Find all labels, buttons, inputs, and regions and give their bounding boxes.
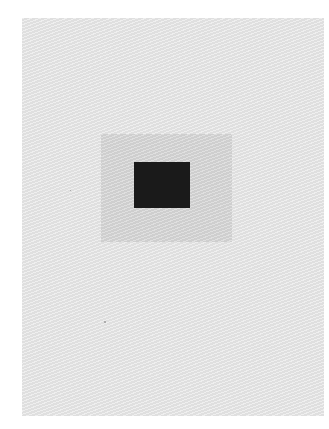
dust-speck <box>104 321 106 323</box>
inner-dark-square <box>134 162 190 208</box>
dust-speck <box>70 190 71 191</box>
